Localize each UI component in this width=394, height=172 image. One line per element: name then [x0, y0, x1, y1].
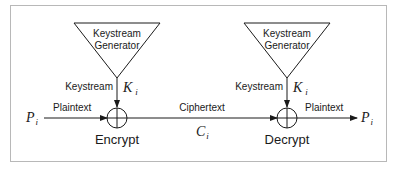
ciphertext-label: Ciphertext: [179, 102, 225, 113]
ciphertext-symbol: Ci: [196, 124, 209, 141]
encrypt-key-symbol: Ki: [122, 80, 138, 97]
encrypt-label: Encrypt: [95, 132, 139, 147]
encrypt-keystream-generator: Keystream Generator: [74, 23, 160, 78]
generator-label-line2: Generator: [94, 40, 140, 51]
stream-cipher-diagram: Keystream Generator Keystream Ki Pi Plai…: [0, 0, 394, 172]
decrypt-key-symbol: Ki: [292, 80, 308, 97]
encrypt-keystream-label: Keystream: [65, 81, 113, 92]
input-plaintext-label: Plaintext: [53, 102, 92, 113]
output-plaintext-label: Plaintext: [305, 102, 344, 113]
decrypt-keystream-label: Keystream: [235, 81, 283, 92]
decrypt-label: Decrypt: [265, 132, 310, 147]
generator-label-line1: Keystream: [263, 28, 311, 39]
encrypt-xor-icon: [107, 108, 127, 128]
generator-label-line2: Generator: [264, 40, 310, 51]
decrypt-xor-icon: [277, 108, 297, 128]
input-plaintext-symbol: Pi: [25, 110, 39, 127]
decrypt-keystream-generator: Keystream Generator: [244, 23, 330, 78]
output-plaintext-symbol: Pi: [360, 110, 374, 127]
generator-label-line1: Keystream: [93, 28, 141, 39]
